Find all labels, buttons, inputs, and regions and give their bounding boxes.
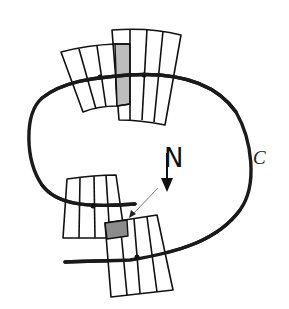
- label-curve: C: [253, 147, 266, 168]
- diagram-canvas: N C: [0, 0, 289, 309]
- crossing-point: [135, 255, 140, 260]
- curve-c-overlay-bottom-left: [42, 185, 135, 205]
- label-normal: N: [164, 143, 183, 173]
- normal-arrow: N: [161, 143, 183, 192]
- shaded-cell-bottom: [105, 220, 128, 239]
- arrowhead-icon: [161, 178, 173, 192]
- pointer-arrowhead-icon: [129, 210, 136, 218]
- crossing-point: [91, 204, 96, 209]
